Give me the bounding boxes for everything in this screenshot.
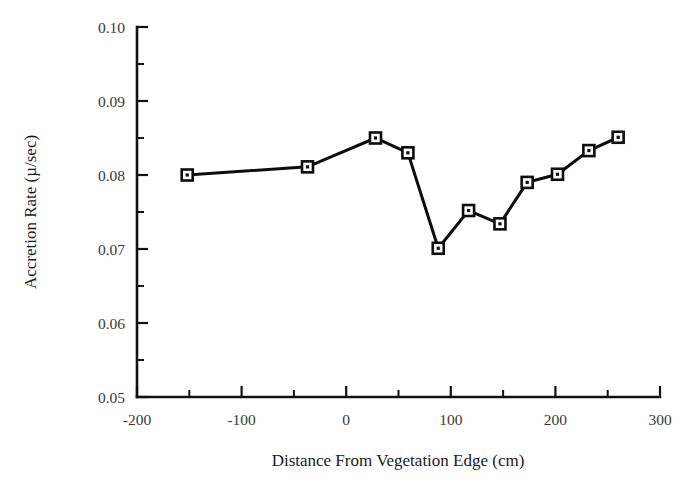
x-tick-label: 100 xyxy=(439,411,463,428)
data-point-center-dot xyxy=(467,209,470,212)
x-tick-label: -200 xyxy=(123,411,152,428)
data-point-center-dot xyxy=(587,149,590,152)
data-point-center-dot xyxy=(306,165,309,168)
y-tick-label: 0.09 xyxy=(98,93,125,110)
data-point-center-dot xyxy=(498,222,501,225)
data-point-center-dot xyxy=(556,173,559,176)
data-point-center-dot xyxy=(526,181,529,184)
x-tick-label: -100 xyxy=(227,411,256,428)
data-point-center-dot xyxy=(617,136,620,139)
y-axis-label: Accretion Rate (µ/sec) xyxy=(21,135,40,289)
y-tick-label: 0.10 xyxy=(98,19,125,36)
data-point-center-dot xyxy=(406,151,409,154)
x-tick-label: 0 xyxy=(342,411,350,428)
y-tick-label: 0.07 xyxy=(98,241,125,258)
x-axis-label: Distance From Vegetation Edge (cm) xyxy=(272,451,525,470)
y-tick-label: 0.06 xyxy=(98,315,125,332)
y-tick-label: 0.05 xyxy=(98,389,125,406)
x-tick-label: 300 xyxy=(648,411,672,428)
data-point-center-dot xyxy=(186,173,189,176)
data-point-center-dot xyxy=(437,247,440,250)
accretion-rate-line-chart: 0.050.060.070.080.090.10 -200-1000100200… xyxy=(0,0,700,488)
x-tick-label: 200 xyxy=(544,411,568,428)
data-point-center-dot xyxy=(374,136,377,139)
y-tick-label: 0.08 xyxy=(98,167,125,184)
